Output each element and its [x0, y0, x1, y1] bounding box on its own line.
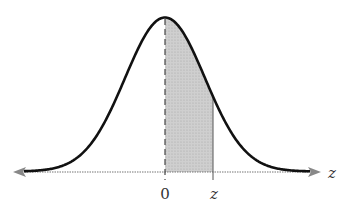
- origin-label: 0: [160, 185, 170, 203]
- normal-curve-figure: 0 z z: [0, 0, 346, 207]
- axis-label: z: [327, 164, 336, 182]
- z-mark-label: z: [209, 185, 218, 203]
